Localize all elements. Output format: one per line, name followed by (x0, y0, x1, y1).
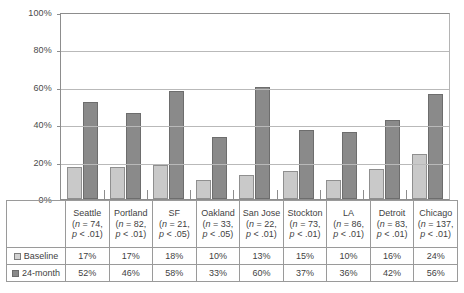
city-name: SF (153, 208, 196, 219)
p-value: p < .01) (110, 229, 153, 240)
cell-24-month-portland: 46% (109, 265, 153, 282)
legend-label: Baseline (24, 251, 59, 261)
bar-san-jose-baseline (239, 175, 254, 199)
y-tickmark (57, 126, 61, 127)
data-table-region: Seattle(n = 74,p < .01)Portland(n = 82,p… (0, 200, 464, 282)
sample-size: (n = 137, (414, 219, 457, 230)
bar-oakland-24-month (212, 137, 227, 199)
bar-group-san-jose (233, 14, 276, 199)
bar-group-chicago (406, 14, 449, 199)
y-tickmark (57, 14, 61, 15)
bar-la-24-month (342, 132, 357, 199)
cell-baseline-chicago: 24% (414, 248, 458, 265)
column-header-portland: Portland(n = 82,p < .01) (109, 201, 153, 248)
y-axis: 0%20%40%60%80%100% (0, 0, 56, 203)
y-tickmark (57, 51, 61, 52)
city-name: Stockton (284, 208, 327, 219)
p-value: p < .01) (327, 229, 370, 240)
bar-portland-baseline (110, 167, 125, 199)
p-value: p < .05) (153, 229, 196, 240)
cell-baseline-portland: 17% (109, 248, 153, 265)
cell-baseline-seattle: 17% (66, 248, 110, 265)
cell-baseline-san-jose: 13% (240, 248, 284, 265)
bar-group-sf (147, 14, 190, 199)
city-name: Chicago (414, 208, 457, 219)
bar-detroit-baseline (369, 169, 384, 199)
cell-24-month-oakland: 33% (196, 265, 240, 282)
sample-size: (n = 33, (197, 219, 240, 230)
p-value: p < .01) (414, 229, 457, 240)
bar-group-la (320, 14, 363, 199)
city-name: Oakland (197, 208, 240, 219)
bar-seattle-24-month (83, 102, 98, 199)
sample-size: (n = 22, (240, 219, 283, 230)
cell-baseline-la: 10% (327, 248, 371, 265)
data-table: Seattle(n = 74,p < .01)Portland(n = 82,p… (6, 200, 458, 282)
plot-region: 0%20%40%60%80%100% (0, 0, 464, 203)
sample-size: (n = 83, (371, 219, 414, 230)
bar-sf-24-month (169, 91, 184, 199)
table-header-row: Seattle(n = 74,p < .01)Portland(n = 82,p… (7, 201, 458, 248)
y-tick-label-100: 100% (28, 8, 52, 18)
city-name: San Jose (240, 208, 283, 219)
cell-baseline-stockton: 15% (283, 248, 327, 265)
cell-24-month-stockton: 37% (283, 265, 327, 282)
table-row-baseline: Baseline17%17%18%10%13%15%10%16%24% (7, 248, 458, 265)
p-value: p < .05) (197, 229, 240, 240)
plot-area (60, 13, 450, 200)
bar-chicago-baseline (412, 154, 427, 199)
cell-24-month-chicago: 56% (414, 265, 458, 282)
gridline (61, 51, 449, 52)
column-header-detroit: Detroit(n = 83,p < .01) (370, 201, 414, 248)
p-value: p < .01) (284, 229, 327, 240)
column-header-la: LA(n = 86,p < .01) (327, 201, 371, 248)
cell-baseline-sf: 18% (153, 248, 197, 265)
p-value: p < .01) (371, 229, 414, 240)
bar-oakland-baseline (196, 180, 211, 199)
y-tick-label-40: 40% (33, 120, 52, 130)
gridline (61, 126, 449, 127)
y-tick-label-20: 20% (33, 158, 52, 168)
cell-24-month-detroit: 42% (370, 265, 414, 282)
legend-item-24-month: 24-month (7, 265, 66, 282)
cell-24-month-seattle: 52% (66, 265, 110, 282)
cell-baseline-oakland: 10% (196, 248, 240, 265)
column-header-stockton: Stockton(n = 73,p < .01) (283, 201, 327, 248)
bar-groups (61, 14, 449, 199)
bar-detroit-24-month (385, 120, 400, 199)
bar-seattle-baseline (67, 167, 82, 199)
followup-swatch-icon (12, 270, 19, 277)
table-row-24-month: 24-month52%46%58%33%60%37%36%42%56% (7, 265, 458, 282)
gridline (61, 89, 449, 90)
cell-24-month-la: 36% (327, 265, 371, 282)
city-name: Seattle (66, 208, 109, 219)
bar-stockton-baseline (283, 171, 298, 199)
cell-24-month-san-jose: 60% (240, 265, 284, 282)
column-header-chicago: Chicago(n = 137,p < .01) (414, 201, 458, 248)
y-tick-label-60: 60% (33, 83, 52, 93)
sample-size: (n = 21, (153, 219, 196, 230)
gridline (61, 164, 449, 165)
bar-group-oakland (190, 14, 233, 199)
sample-size: (n = 73, (284, 219, 327, 230)
cell-24-month-sf: 58% (153, 265, 197, 282)
data-table-body: Seattle(n = 74,p < .01)Portland(n = 82,p… (7, 201, 458, 282)
column-header-san-jose: San Jose(n = 22,p < .01) (240, 201, 284, 248)
bar-san-jose-24-month (255, 87, 270, 199)
sample-size: (n = 74, (66, 219, 109, 230)
column-header-seattle: Seattle(n = 74,p < .01) (66, 201, 110, 248)
city-name: LA (327, 208, 370, 219)
p-value: p < .01) (240, 229, 283, 240)
column-header-oakland: Oakland(n = 33,p < .05) (196, 201, 240, 248)
bar-chicago-24-month (428, 94, 443, 199)
city-name: Detroit (371, 208, 414, 219)
bar-la-baseline (326, 180, 341, 199)
cell-baseline-detroit: 16% (370, 248, 414, 265)
p-value: p < .01) (66, 229, 109, 240)
y-tick-label-80: 80% (33, 45, 52, 55)
bar-group-portland (104, 14, 147, 199)
baseline-swatch-icon (14, 253, 21, 260)
bar-group-detroit (363, 14, 406, 199)
sample-size: (n = 86, (327, 219, 370, 230)
y-tickmark (57, 164, 61, 165)
